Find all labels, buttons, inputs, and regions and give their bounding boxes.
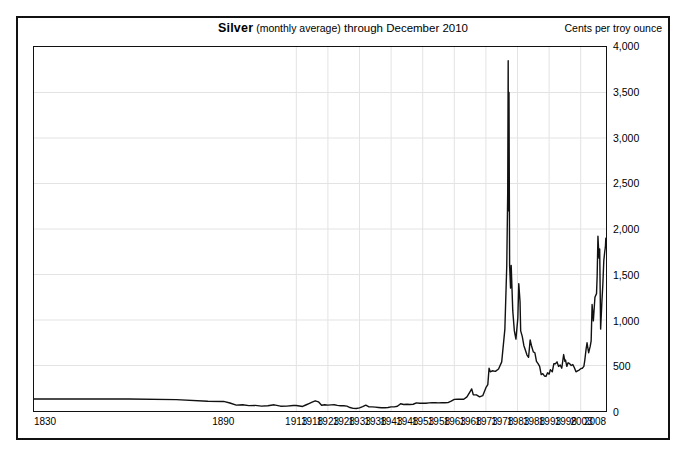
- y-axis-unit-label: Cents per troy ounce: [565, 22, 662, 35]
- y-tick-label: 0: [613, 407, 619, 418]
- plot-area: [33, 46, 607, 412]
- y-axis: 05001,0001,5002,0002,5003,0003,5004,000: [609, 46, 669, 412]
- y-tick-label: 2,500: [613, 178, 639, 189]
- x-tick-label: 2008: [584, 416, 606, 428]
- chart-header: Silver (monthly average) through Decembe…: [18, 18, 668, 40]
- y-tick-label: 1,500: [613, 269, 639, 280]
- y-tick-label: 3,500: [613, 86, 639, 97]
- chart-title-subtitle: (monthly average): [253, 22, 341, 34]
- chart-title-tail: through December 2010: [341, 22, 468, 34]
- chart-title-main: Silver: [218, 21, 253, 35]
- x-axis: 1830189019131918192319281933193819431948…: [33, 416, 607, 432]
- y-tick-label: 500: [613, 361, 631, 372]
- y-tick-label: 1,000: [613, 315, 639, 326]
- silver-price-chart-figure: Silver (monthly average) through Decembe…: [0, 0, 686, 462]
- x-tick-label: 1830: [34, 416, 56, 428]
- y-tick-label: 4,000: [613, 41, 639, 52]
- y-tick-label: 2,000: [613, 224, 639, 235]
- y-tick-label: 3,000: [613, 132, 639, 143]
- price-series-line: [34, 47, 606, 411]
- x-tick-label: 1890: [212, 416, 234, 428]
